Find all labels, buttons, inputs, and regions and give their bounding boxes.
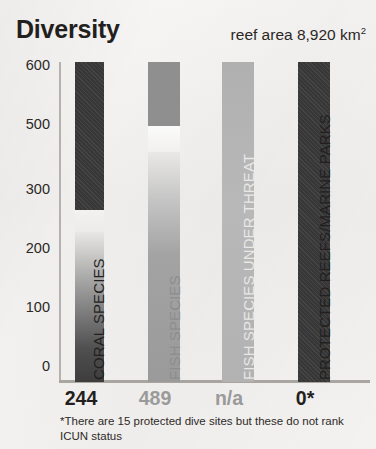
bar-fish-species-upper-segment [148, 62, 180, 126]
y-tick-200: 200 [26, 241, 50, 255]
bar-protected-reefs[interactable]: PROTECTED REEFS/MARINE PARKS [298, 62, 330, 382]
y-tick-100: 100 [26, 300, 50, 314]
y-tick-300: 300 [26, 182, 50, 196]
value-label-fish-species: 489 [124, 386, 186, 410]
value-label-protected-reefs: 0* [274, 386, 336, 410]
y-tick-600: 600 [26, 58, 50, 72]
value-label-coral-species: 244 [50, 386, 112, 410]
bar-coral-species[interactable]: CORAL SPECIES [75, 62, 104, 382]
y-tick-500: 500 [26, 117, 50, 131]
bar-label-protected-reefs: PROTECTED REEFS/MARINE PARKS [316, 114, 333, 380]
plot-area: CORAL SPECIES FISH SPECIES FISH SPECIES … [59, 62, 370, 382]
value-label-fish-species-under-threat: n/a [198, 386, 260, 410]
value-label-row: 244 489 n/a 0* [0, 386, 376, 412]
bar-fish-species[interactable]: FISH SPECIES [148, 62, 180, 382]
reef-area-superscript: 2 [361, 25, 366, 36]
footnote-line-1: *There are 15 protected dive sites but t… [60, 414, 360, 429]
footnote-line-2: ICUN status [60, 429, 360, 444]
bar-fish-species-gap [148, 126, 180, 152]
reef-area-text: reef area 8,920 km [231, 26, 361, 43]
diversity-chart: Diversity reef area 8,920 km2 600 500 30… [0, 0, 376, 449]
bar-coral-species-upper-segment [75, 62, 104, 210]
y-tick-0: 0 [42, 359, 50, 373]
bar-label-fish-species: FISH SPECIES [166, 275, 183, 380]
bar-label-fish-species-under-threat: FISH SPECIES UNDER THREAT [240, 154, 257, 380]
y-axis: 600 500 300 200 100 0 [0, 0, 59, 449]
reef-area-subtitle: reef area 8,920 km2 [231, 19, 366, 47]
bar-fish-species-under-threat[interactable]: FISH SPECIES UNDER THREAT [222, 62, 254, 382]
bar-label-coral-species: CORAL SPECIES [90, 258, 107, 380]
footnote: *There are 15 protected dive sites but t… [60, 414, 360, 443]
bar-coral-species-gap [75, 210, 104, 232]
